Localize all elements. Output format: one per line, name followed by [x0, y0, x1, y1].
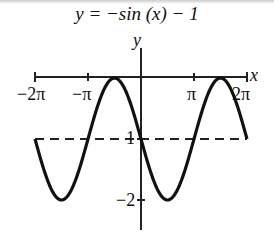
function-graph: y x −2π −π π 2π 1 −2	[0, 0, 274, 234]
y-axis-label: y	[131, 30, 141, 50]
tick-label-neg-1: 1	[126, 128, 135, 148]
tick-label-pi: π	[187, 84, 196, 104]
x-axis-label: x	[249, 65, 258, 85]
tick-label-neg-2pi: −2π	[17, 84, 45, 104]
tick-label-neg-pi: −π	[72, 84, 91, 104]
tick-label-neg-2: −2	[116, 190, 135, 210]
tick-label-2pi: 2π	[232, 84, 250, 104]
